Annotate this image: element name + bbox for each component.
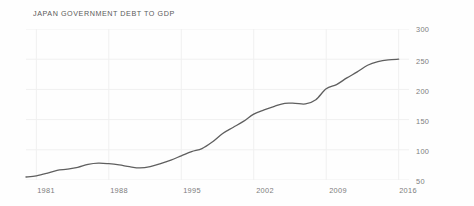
x-axis-tick-label: 1981 [37, 186, 55, 195]
x-axis-tick-label: 2016 [399, 186, 417, 195]
x-axis-tick-label: 2009 [329, 186, 347, 195]
x-axis-tick-label: 1995 [183, 186, 201, 195]
x-axis-tick-label: 1988 [110, 186, 128, 195]
x-axis-tick-label: 2002 [256, 186, 274, 195]
x-axis: 198119881995200220092016 [0, 0, 474, 206]
chart-container: JAPAN GOVERNMENT DEBT TO GDP 30025020015… [0, 0, 474, 206]
